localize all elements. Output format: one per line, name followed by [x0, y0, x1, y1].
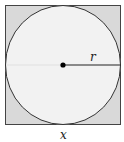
center-dot: [60, 62, 65, 67]
side-label: x: [60, 128, 67, 142]
circle-in-square-diagram: r x: [0, 0, 124, 142]
